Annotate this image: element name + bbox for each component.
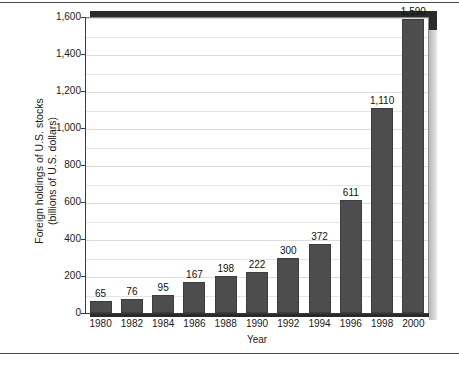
x-axis-tick-label: 2000 (395, 318, 431, 329)
bar (309, 244, 331, 313)
bar (371, 108, 393, 313)
x-axis-title: Year (85, 334, 429, 345)
bar (152, 295, 174, 313)
bar-value-label: 1,590 (391, 7, 435, 17)
page-rule-top (0, 2, 459, 3)
bar (246, 272, 268, 313)
plot-frame-shadow-fade (429, 30, 437, 320)
bar-value-label: 300 (266, 246, 310, 256)
bar (183, 282, 205, 313)
y-axis-title-line1: Foreign holdings of U.S. stocks (33, 21, 46, 321)
y-axis-tick-mark (81, 313, 85, 314)
bar-value-label: 1,110 (360, 96, 404, 106)
bar-chart-figure: 02004006008001,0001,2001,4001,600 657695… (0, 0, 459, 368)
bar (277, 258, 299, 314)
page-rule-bottom (0, 353, 459, 354)
bar-value-label: 222 (235, 260, 279, 270)
bar (121, 299, 143, 313)
bar-value-label: 372 (298, 232, 342, 242)
bar (215, 276, 237, 313)
bar (340, 200, 362, 313)
bar-value-label: 95 (141, 283, 185, 293)
bar (90, 301, 112, 313)
x-axis-line (85, 313, 429, 314)
bar-value-label: 611 (329, 188, 373, 198)
y-axis-title: Foreign holdings of U.S. stocks (billion… (33, 21, 59, 321)
y-axis-title-line2: (billions of U.S. dollars) (46, 21, 59, 321)
bar (402, 19, 424, 313)
